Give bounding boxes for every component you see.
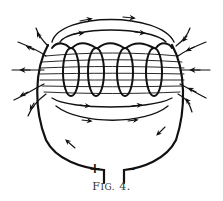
arrow-lower-4 — [128, 120, 136, 121]
field-line-left-top — [36, 28, 48, 46]
field-line-right-upper — [178, 42, 206, 56]
field-line-left-lower — [14, 84, 44, 100]
coil-turn-1 — [63, 48, 79, 96]
coil-turn-4 — [146, 48, 162, 96]
negative-terminal-label: – — [128, 160, 135, 176]
caption-number: 4. — [119, 180, 131, 193]
field-line-lower-1 — [52, 98, 172, 107]
coil-turn-3 — [117, 48, 133, 96]
arrow-lead-left — [67, 141, 75, 148]
coil-top-arcs — [52, 43, 172, 48]
figure-caption: FIG. 4. — [0, 180, 223, 193]
arrow-lead-right — [158, 127, 165, 134]
caption-rest: IG. — [100, 182, 115, 192]
field-line-lower-2 — [56, 106, 168, 120]
arrow-lower-3 — [82, 120, 90, 121]
positive-terminal-label: + — [89, 160, 101, 176]
coil-turn-2 — [88, 48, 104, 96]
solenoid-diagram — [0, 0, 223, 201]
internal-field-lines — [40, 53, 184, 94]
field-line-right-top — [176, 28, 190, 46]
arrow-right-upper — [188, 47, 194, 50]
field-line-top-inner — [60, 30, 166, 42]
arrow-top-2 — [123, 17, 133, 18]
field-line-top-outer — [52, 20, 174, 43]
